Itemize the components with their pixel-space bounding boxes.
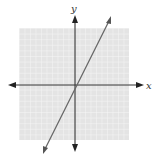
y-axis-bottom-arrow-icon — [72, 144, 78, 152]
grid — [19, 28, 129, 140]
line-top-arrow-icon — [106, 16, 111, 24]
line-bottom-arrow-icon — [43, 146, 48, 154]
y-axis-label: y — [70, 3, 77, 14]
coordinate-plane: y x — [0, 0, 153, 157]
y-axis-top-arrow-icon — [72, 15, 78, 23]
x-axis-left-arrow-icon — [8, 82, 16, 88]
x-axis-right-arrow-icon — [136, 82, 144, 88]
x-axis-label: x — [146, 80, 152, 91]
